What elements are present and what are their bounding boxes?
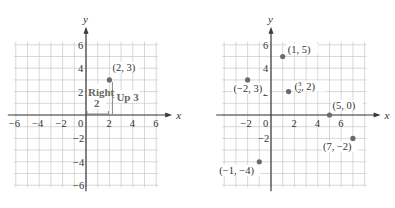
y-axis-label: y bbox=[82, 13, 88, 25]
data-point bbox=[245, 77, 250, 82]
point-label: (5, 0) bbox=[333, 100, 356, 112]
x-tick-label: 2 bbox=[106, 118, 111, 129]
point-label: (2, 3) bbox=[112, 62, 135, 74]
y-tick-label: 4 bbox=[263, 63, 269, 74]
point-label: (−1, −4) bbox=[219, 165, 254, 177]
y-tick-label: 6 bbox=[78, 40, 83, 51]
point-label: (−2, 3) bbox=[234, 83, 263, 95]
point-label: (1, 5) bbox=[288, 44, 311, 56]
y-tick-label: −4 bbox=[73, 157, 85, 168]
right-amount-label: 2 bbox=[94, 97, 100, 109]
x-tick-label: −6 bbox=[9, 118, 20, 129]
x-axis-label: x bbox=[175, 109, 181, 121]
x-tick-label: −2 bbox=[56, 118, 67, 129]
data-point bbox=[327, 112, 332, 117]
y-tick-label: 6 bbox=[263, 40, 268, 51]
y-tick-label: −6 bbox=[73, 180, 84, 191]
y-tick-label: 4 bbox=[78, 63, 84, 74]
data-point bbox=[107, 77, 112, 82]
x-tick-label: 0 bbox=[263, 118, 268, 129]
x-arrow-icon bbox=[165, 113, 172, 118]
x-tick-label: 6 bbox=[153, 118, 158, 129]
right-graph: xy−20246642−2(1, 5)(−2, 3)(32, 2)(5, 0)(… bbox=[216, 13, 389, 191]
left-graph: xy−6−4−20246642−2−4−6Right2Up 3(2, 3) bbox=[8, 13, 181, 191]
y-arrow-icon bbox=[84, 27, 89, 34]
x-tick-label: 0 bbox=[78, 118, 83, 129]
y-tick-label: −2 bbox=[73, 133, 84, 144]
point-label: (7, −2) bbox=[323, 141, 352, 153]
y-arrow-icon bbox=[269, 27, 274, 34]
x-axis-label: x bbox=[384, 109, 390, 121]
x-tick-label: −4 bbox=[32, 118, 44, 129]
y-axis-label: y bbox=[267, 13, 273, 25]
y-tick-label: 2 bbox=[78, 87, 83, 98]
x-arrow-icon bbox=[374, 113, 381, 118]
x-tick-label: 2 bbox=[291, 118, 296, 129]
data-point bbox=[257, 159, 262, 164]
y-tick-label: −2 bbox=[258, 133, 269, 144]
up-label: Up 3 bbox=[116, 91, 139, 103]
x-tick-label: 4 bbox=[315, 118, 321, 129]
x-tick-label: −2 bbox=[241, 118, 252, 129]
right-label: Right bbox=[88, 86, 115, 98]
data-point bbox=[286, 89, 291, 94]
data-point bbox=[280, 54, 285, 59]
data-point bbox=[350, 136, 355, 141]
coordinate-figures: xy−6−4−20246642−2−4−6Right2Up 3(2, 3) xy… bbox=[0, 0, 395, 208]
x-tick-label: 4 bbox=[130, 118, 136, 129]
x-tick-label: 6 bbox=[338, 118, 343, 129]
point-label: (32, 2) bbox=[295, 80, 316, 95]
